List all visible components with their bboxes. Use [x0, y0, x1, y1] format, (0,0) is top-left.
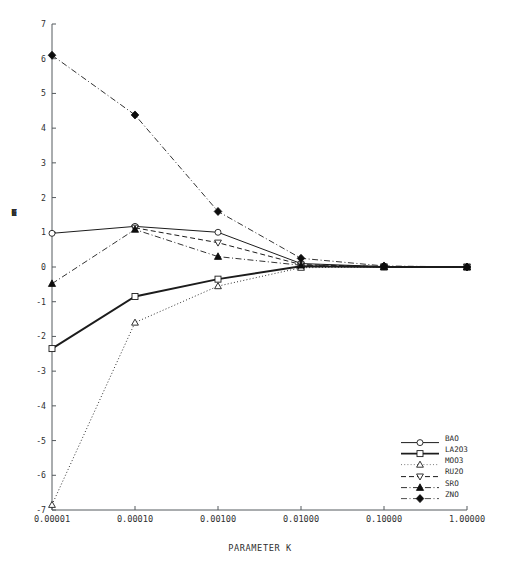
- x-axis: 0.000010.000100.001000.010000.100001.000…: [34, 506, 485, 524]
- y-tick-label: 6: [41, 54, 46, 64]
- data-point-marker: [49, 230, 55, 236]
- y-tick-label: 1: [41, 227, 46, 237]
- data-point-marker: [49, 501, 56, 507]
- y-tick-label: 7: [41, 19, 46, 29]
- data-point-marker: [132, 294, 138, 300]
- y-tick-label: -6: [36, 470, 46, 480]
- y-tick-label: -3: [36, 366, 46, 376]
- data-point-marker: [215, 240, 222, 246]
- x-tick-label: 0.01000: [283, 514, 319, 524]
- x-tick-label: 1.00000: [449, 514, 485, 524]
- legend-label: MOO3: [445, 456, 463, 465]
- legend-label: RU2O: [445, 467, 463, 476]
- series-bao: [49, 223, 470, 270]
- legend-line-sample-icon: [400, 433, 440, 444]
- y-tick-label: -5: [36, 436, 46, 446]
- x-tick-label: 0.00001: [34, 514, 70, 524]
- data-point-marker: [214, 207, 222, 215]
- x-tick-label: 0.00010: [117, 514, 153, 524]
- data-point-marker: [48, 280, 55, 287]
- y-tick-label: 5: [41, 88, 46, 98]
- data-point-marker: [215, 283, 222, 289]
- data-point-marker: [416, 495, 424, 503]
- legend-line-sample-icon: [400, 467, 440, 478]
- y-axis: 76543210-1-2-3-4-5-6-7: [36, 19, 56, 515]
- series-line-zno: [52, 55, 467, 267]
- series-zno: [48, 51, 471, 271]
- legend-label: SRO: [445, 479, 459, 488]
- x-axis-title: PARAMETER K: [228, 543, 292, 553]
- x-tick-label: 0.10000: [366, 514, 402, 524]
- data-point-marker: [48, 51, 56, 59]
- data-point-marker: [215, 276, 221, 282]
- y-tick-label: -4: [36, 401, 46, 411]
- data-point-marker: [49, 346, 55, 352]
- legend-line-sample-icon: [400, 478, 440, 489]
- legend-line-sample-icon: [400, 456, 440, 467]
- legend-item-la2o3: LA2O3: [400, 444, 508, 455]
- data-point-marker: [131, 111, 139, 119]
- legend-label: BAO: [445, 434, 459, 443]
- legend-item-bao: BAO: [400, 433, 508, 444]
- legend-line-sample-icon: [400, 489, 440, 500]
- y-tick-label: 0: [41, 262, 46, 272]
- data-point-marker: [215, 229, 221, 235]
- legend-label: ZNO: [445, 490, 459, 499]
- x-tick-label: 0.00100: [200, 514, 236, 524]
- legend-item-sro: SRO: [400, 478, 508, 489]
- y-tick-label: -1: [36, 297, 46, 307]
- legend-label: LA2O3: [445, 445, 468, 454]
- y-tick-label: 3: [41, 158, 46, 168]
- chart-container: 76543210-1-2-3-4-5-6-7 0.000010.000100.0…: [0, 0, 512, 571]
- legend-line-sample-icon: [400, 444, 440, 455]
- legend-item-zno: ZNO: [400, 489, 508, 500]
- series-line-sro: [52, 230, 467, 284]
- y-tick-label: -2: [36, 331, 46, 341]
- y-tick-label: 2: [41, 193, 46, 203]
- y-tick-label: 4: [41, 123, 46, 133]
- legend-item-moo3: MOO3: [400, 456, 508, 467]
- y-axis-title-char: S: [8, 208, 20, 218]
- chart-legend: BAOLA2O3MOO3RU2OSROZNO: [400, 433, 508, 505]
- data-point-marker: [297, 254, 305, 262]
- legend-item-ru2o: RU2O: [400, 467, 508, 478]
- data-point-marker: [132, 319, 139, 325]
- series-line-la2o3: [52, 266, 467, 348]
